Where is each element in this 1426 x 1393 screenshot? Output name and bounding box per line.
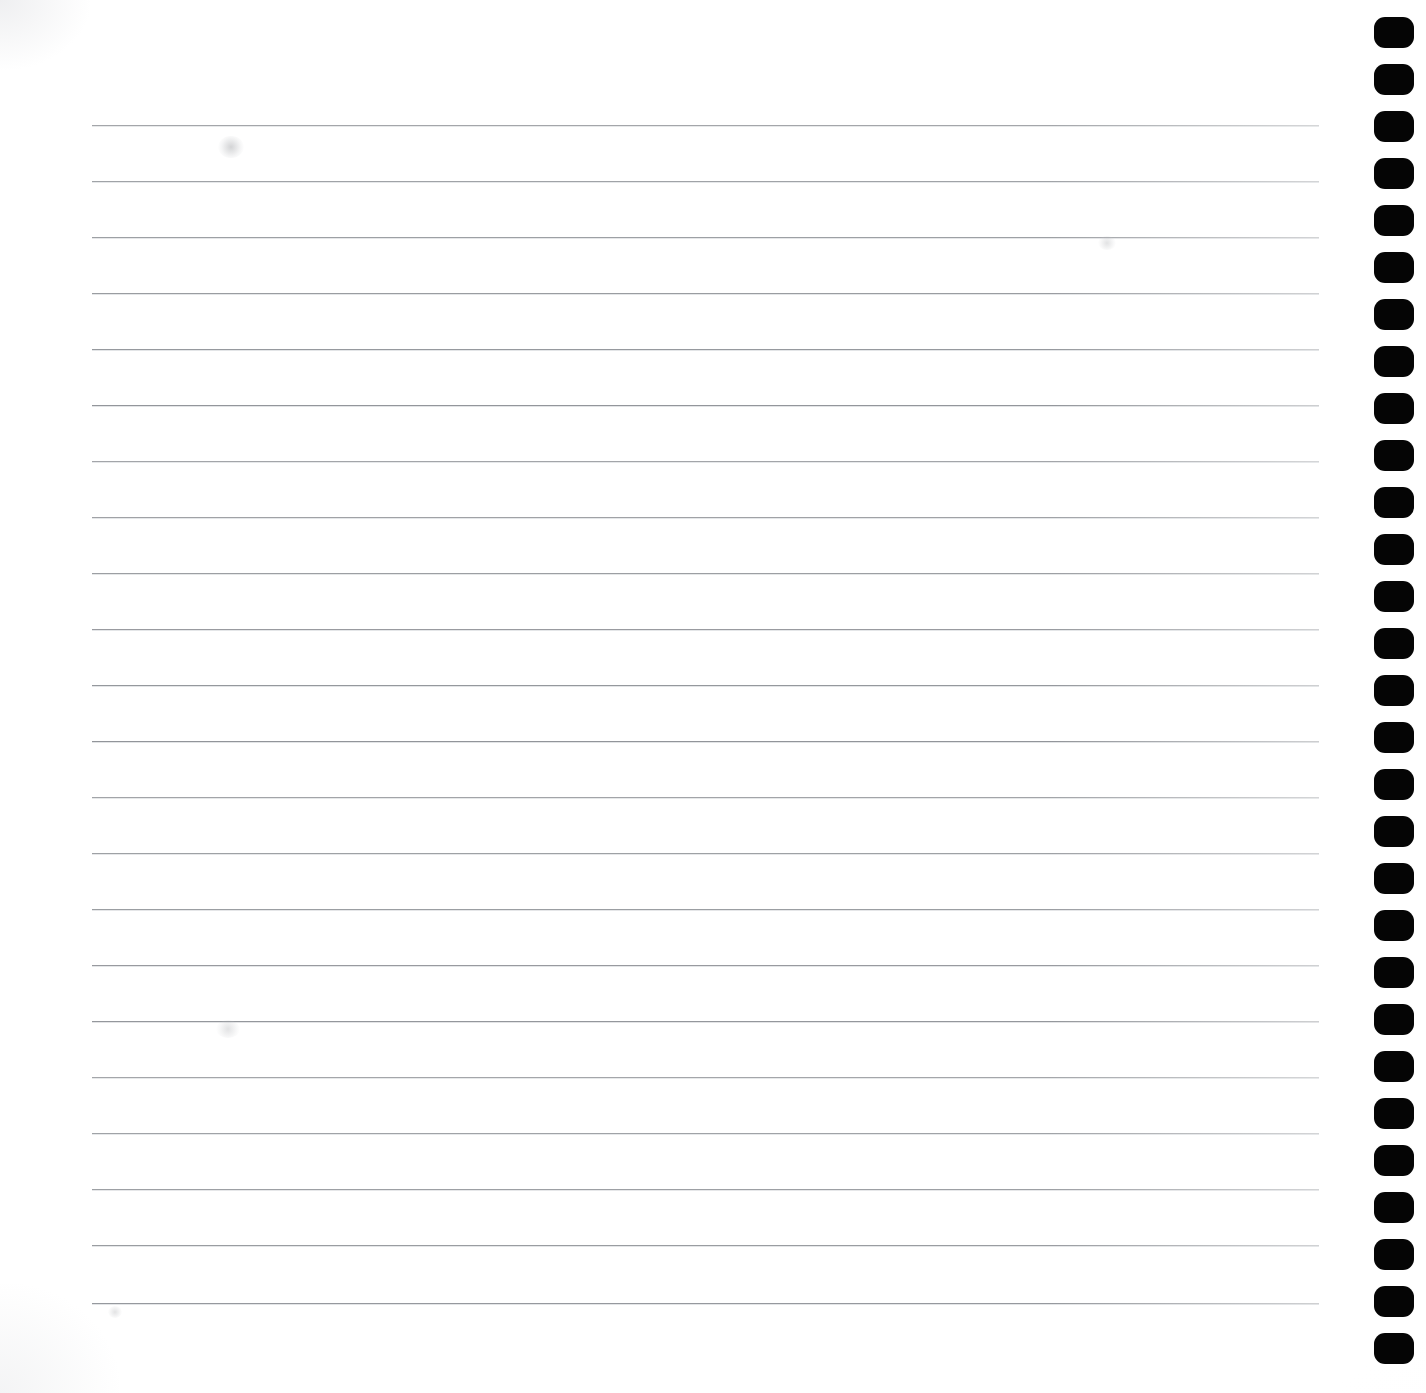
binding-hole [1374,1286,1414,1317]
binding-hole [1374,1192,1414,1223]
binding-hole [1374,440,1414,471]
binding-hole [1374,111,1414,142]
rule-line [92,517,1319,518]
rule-line [92,797,1319,798]
rule-line [92,1133,1319,1134]
rule-line [92,853,1319,854]
rule-line [92,349,1319,350]
rule-line [92,965,1319,966]
binding-hole [1374,581,1414,612]
binding-hole [1374,1051,1414,1082]
binding-hole [1374,769,1414,800]
binding-hole [1374,534,1414,565]
binding-hole [1374,957,1414,988]
binding-hole [1374,64,1414,95]
binding-hole [1374,17,1414,48]
rule-line [92,573,1319,574]
rule-line [92,1245,1319,1246]
rule-line [92,685,1319,686]
binding-hole [1374,628,1414,659]
binding-hole [1374,252,1414,283]
binding-hole [1374,487,1414,518]
rule-line [92,1189,1319,1190]
binding-hole [1374,675,1414,706]
binding-hole [1374,1004,1414,1035]
binding-hole [1374,1333,1414,1364]
rule-line [92,909,1319,910]
rule-line [92,181,1319,182]
binding-hole [1374,1239,1414,1270]
binding-hole [1374,816,1414,847]
binding-hole [1374,1098,1414,1129]
rule-line [92,461,1319,462]
binding-hole [1374,863,1414,894]
ruled-lines-group [0,0,1426,1393]
binding-hole [1374,158,1414,189]
scanned-page [0,0,1426,1393]
rule-line [92,629,1319,630]
binding-hole [1374,346,1414,377]
rule-line [92,1077,1319,1078]
rule-line [92,1021,1319,1022]
rule-line [92,237,1319,238]
rule-line [92,1303,1319,1304]
rule-line [92,405,1319,406]
binding-hole [1374,299,1414,330]
binding-hole [1374,722,1414,753]
rule-line [92,293,1319,294]
rule-line [92,125,1319,126]
binding-hole [1374,393,1414,424]
binding-hole [1374,1145,1414,1176]
binding-hole [1374,910,1414,941]
rule-line [92,741,1319,742]
binding-hole [1374,205,1414,236]
